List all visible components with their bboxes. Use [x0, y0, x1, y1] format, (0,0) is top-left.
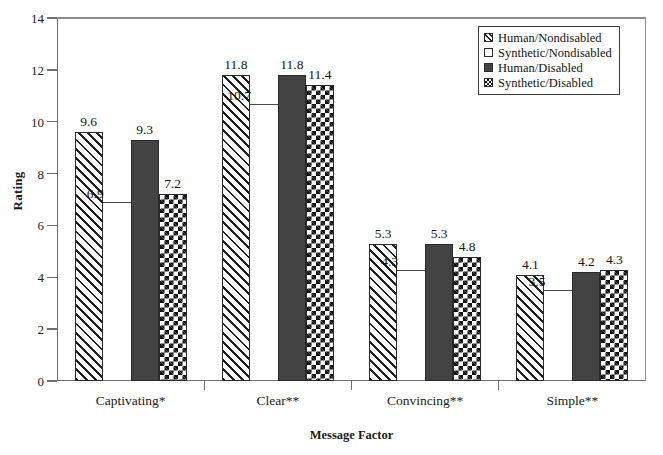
plot-top-border — [57, 17, 646, 18]
y-axis-tick-label: 14 — [4, 12, 44, 25]
y-axis-tick — [47, 173, 57, 174]
legend-item: Synthetic/Disabled — [484, 75, 612, 90]
bar-value-label: 4.3 — [606, 253, 623, 267]
y-axis-tick — [47, 328, 57, 329]
bar — [600, 270, 628, 381]
y-axis-tick — [47, 380, 57, 381]
bar — [425, 244, 453, 381]
x-axis-title: Message Factor — [57, 428, 646, 443]
white-fill-swatch-icon — [484, 48, 493, 57]
y-axis-tick — [47, 277, 57, 278]
y-axis-tick-label: 2 — [4, 323, 44, 336]
y-axis-tick — [47, 225, 57, 226]
bar — [103, 202, 131, 203]
legend-item-label: Synthetic/Disabled — [498, 76, 593, 90]
bar — [131, 140, 159, 381]
y-axis-tick-label: 6 — [4, 219, 44, 232]
legend-item: Human/Nondisabled — [484, 30, 612, 45]
bar-value-label: 9.3 — [136, 123, 153, 137]
bar — [397, 270, 425, 271]
bar-value-label: 11.8 — [224, 58, 247, 72]
bar — [516, 275, 544, 381]
y-axis-tick — [47, 121, 57, 122]
y-axis-tick-label: 12 — [4, 63, 44, 76]
legend-item-label: Human/Disabled — [498, 61, 583, 75]
plot-right-border — [645, 18, 646, 381]
y-axis-tick-label: 0 — [4, 375, 44, 388]
legend-item-label: Human/Nondisabled — [498, 31, 601, 45]
bar-value-label: 5.3 — [431, 227, 448, 241]
legend-item-label: Synthetic/Nondisabled — [498, 46, 612, 60]
y-axis-tick-label: 4 — [4, 271, 44, 284]
y-axis-tick-label: 10 — [4, 115, 44, 128]
x-axis-tick — [498, 381, 499, 390]
bar-value-label: 9.6 — [80, 115, 97, 129]
bar-value-label: 5.3 — [375, 227, 392, 241]
legend-item: Human/Disabled — [484, 60, 612, 75]
chart-legend: Human/Nondisabled Synthetic/Nondisabled … — [478, 26, 620, 95]
legend-item: Synthetic/Nondisabled — [484, 45, 612, 60]
bar — [453, 257, 481, 381]
x-axis-category-label: Clear** — [257, 393, 300, 409]
bar — [250, 104, 278, 105]
diagonal-hatch-swatch-icon — [484, 33, 493, 42]
x-axis-tick — [351, 381, 352, 390]
bar-value-label: 10.7 — [227, 89, 251, 103]
checkerboard-swatch-icon — [484, 78, 493, 87]
x-axis-category-label: Simple** — [546, 393, 598, 409]
dark-solid-swatch-icon — [484, 63, 493, 72]
bar-value-label: 4.2 — [578, 255, 595, 269]
y-axis-tick — [47, 17, 57, 18]
bar — [278, 75, 306, 381]
bar-value-label: 11.4 — [308, 68, 331, 82]
y-axis-tick — [47, 69, 57, 70]
bar-value-label: 11.8 — [280, 58, 303, 72]
bar-value-label: 6.9 — [87, 187, 104, 201]
x-axis-tick — [204, 381, 205, 390]
bar — [159, 194, 187, 381]
bar-value-label: 3.5 — [529, 275, 546, 289]
bar — [75, 132, 103, 381]
bar-value-label: 4.8 — [459, 240, 476, 254]
bar-chart: Rating 02468101214 9.66.99.37.2Captivati… — [0, 0, 663, 455]
bar-value-label: 4.3 — [381, 255, 398, 269]
bar — [544, 290, 572, 291]
bar — [222, 75, 250, 381]
bar — [572, 272, 600, 381]
bar-value-label: 4.1 — [522, 258, 539, 272]
bar-value-label: 7.2 — [164, 177, 181, 191]
y-axis-tick-label: 8 — [4, 167, 44, 180]
x-axis-category-label: Convincing** — [387, 393, 464, 409]
bar — [306, 85, 334, 381]
x-axis-category-label: Captivating* — [96, 393, 166, 409]
